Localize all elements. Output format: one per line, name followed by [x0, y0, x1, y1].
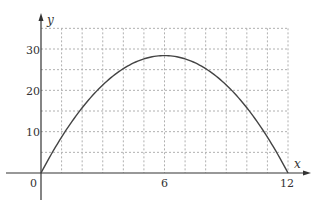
- origin-label: 0: [30, 177, 37, 190]
- x-tick-6: 6: [161, 177, 168, 190]
- x-axis-arrow-icon: [303, 171, 311, 176]
- y-axis-label: y: [46, 13, 54, 27]
- y-axis-arrow-icon: [39, 13, 44, 21]
- x-tick-12: 12: [280, 177, 294, 190]
- y-tick-20: 20: [26, 85, 40, 98]
- y-tick-30: 30: [26, 44, 40, 57]
- x-axis-label: x: [294, 157, 301, 171]
- y-tick-10: 10: [26, 126, 40, 139]
- parabola-chart: x y 0 6 12 10 20 30: [0, 0, 319, 206]
- grid-lines: [41, 28, 288, 173]
